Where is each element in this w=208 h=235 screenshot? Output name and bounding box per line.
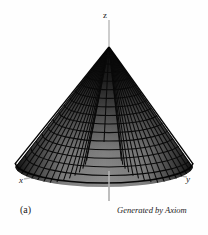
figure-label: (a) <box>20 205 31 215</box>
figure-credit: Generated by Axiom <box>117 206 187 215</box>
axis-label-y: y <box>186 175 190 184</box>
axis-label-x: x <box>19 176 23 185</box>
figure-panel: z x y (a) Generated by Axiom <box>0 0 208 235</box>
cone-surface-plot <box>0 0 208 235</box>
axis-label-z: z <box>103 11 107 20</box>
